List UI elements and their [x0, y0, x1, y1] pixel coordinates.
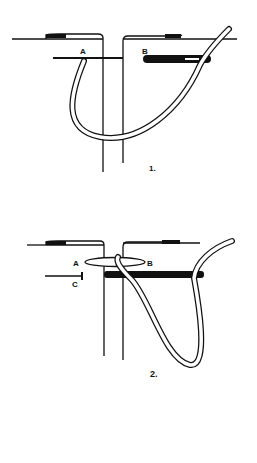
right-seam-allowance: [165, 34, 181, 38]
figure-number: 1.: [149, 164, 156, 173]
figure-1: A B 1.: [12, 29, 237, 173]
point-label-a: A: [73, 259, 79, 268]
left-fabric-fold: [12, 34, 103, 172]
point-label-c: C: [72, 280, 78, 289]
point-label-a: A: [80, 47, 86, 56]
point-label-b: B: [142, 47, 148, 56]
figure-number: 2.: [150, 369, 158, 379]
thread-outline: [72, 29, 229, 138]
right-seam-allowance: [162, 240, 180, 244]
figure-2: A B C 2.: [27, 240, 232, 379]
needle: [104, 271, 204, 278]
left-seam-allowance: [46, 34, 66, 38]
left-fabric-fold: [27, 241, 104, 356]
stitch-diagram: A B 1. A B C 2.: [0, 0, 257, 463]
thread-loop: [72, 29, 229, 138]
left-seam-allowance: [46, 241, 66, 245]
point-label-b: B: [147, 259, 153, 268]
